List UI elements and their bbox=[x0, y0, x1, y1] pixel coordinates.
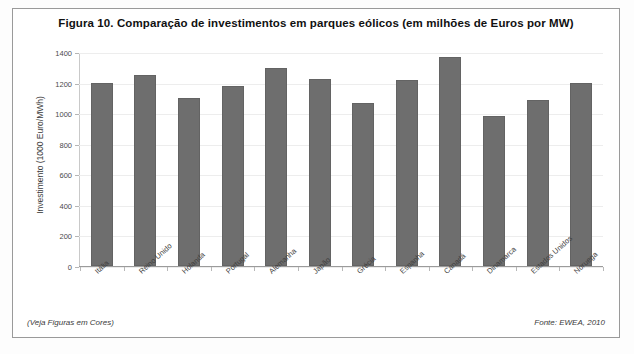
y-tick-label: 200 bbox=[59, 232, 72, 241]
y-tick-label: 600 bbox=[59, 171, 72, 180]
bar[interactable] bbox=[439, 57, 461, 266]
bar-slot bbox=[341, 53, 385, 266]
bar[interactable] bbox=[309, 79, 331, 266]
figure-title: Figura 10. Comparação de investimentos e… bbox=[13, 17, 619, 29]
bar[interactable] bbox=[396, 80, 418, 266]
bar[interactable] bbox=[352, 103, 374, 266]
x-axis-labels: ItáliaReino UnidoHolandaPortugalAlemanha… bbox=[80, 269, 603, 319]
plot-area: 0200400600800100012001400 bbox=[79, 53, 603, 267]
bar-slot bbox=[385, 53, 429, 266]
y-axis-title: Investimento (1000 Euro/MWh) bbox=[35, 45, 49, 265]
bar-slot bbox=[211, 53, 255, 266]
bar[interactable] bbox=[483, 116, 505, 266]
y-tick-label: 800 bbox=[59, 141, 72, 150]
bar[interactable] bbox=[91, 83, 113, 266]
y-tick-label: 0 bbox=[68, 263, 72, 272]
y-tick-label: 400 bbox=[59, 202, 72, 211]
y-tick-mark bbox=[75, 84, 79, 85]
bar-slot bbox=[124, 53, 168, 266]
x-tick-mark bbox=[603, 267, 604, 271]
bar-slot bbox=[80, 53, 124, 266]
y-tick-label: 1000 bbox=[55, 110, 72, 119]
y-tick-mark bbox=[75, 206, 79, 207]
bar-slot bbox=[429, 53, 473, 266]
footnote-left: (Veja Figuras em Cores) bbox=[27, 318, 114, 327]
bar[interactable] bbox=[178, 98, 200, 266]
bar-slot bbox=[516, 53, 560, 266]
y-tick-label: 1400 bbox=[55, 49, 72, 58]
bar[interactable] bbox=[265, 68, 287, 266]
bar[interactable] bbox=[222, 86, 244, 266]
bar-series bbox=[80, 53, 603, 266]
footnote-right: Fonte: EWEA, 2010 bbox=[534, 318, 605, 327]
y-tick-mark bbox=[75, 175, 79, 176]
y-tick-label: 1200 bbox=[55, 80, 72, 89]
bar-slot bbox=[472, 53, 516, 266]
y-tick-mark bbox=[75, 236, 79, 237]
y-tick-mark bbox=[75, 145, 79, 146]
figure-frame: Figura 10. Comparação de investimentos e… bbox=[12, 8, 620, 338]
y-tick-mark bbox=[75, 267, 79, 268]
bar-slot bbox=[298, 53, 342, 266]
bar[interactable] bbox=[527, 100, 549, 266]
bar-slot bbox=[254, 53, 298, 266]
chart-area: Investimento (1000 Euro/MWh) 02004006008… bbox=[27, 37, 607, 285]
bar[interactable] bbox=[134, 75, 156, 266]
figure-page: Figura 10. Comparação de investimentos e… bbox=[0, 0, 634, 354]
y-tick-mark bbox=[75, 53, 79, 54]
y-tick-mark bbox=[75, 114, 79, 115]
bar-slot bbox=[167, 53, 211, 266]
